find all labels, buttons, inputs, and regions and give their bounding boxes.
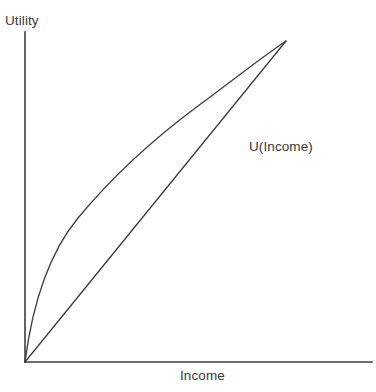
x-axis-label: Income <box>180 368 225 383</box>
reference-line-45deg <box>25 41 286 362</box>
utility-income-diagram: Utility Income U(Income) <box>0 0 376 392</box>
plot-canvas <box>0 0 376 392</box>
utility-curve-label: U(Income) <box>249 139 313 154</box>
y-axis-label: Utility <box>5 13 39 28</box>
